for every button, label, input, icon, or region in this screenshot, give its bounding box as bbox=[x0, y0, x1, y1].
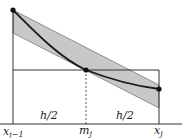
right-endpoint-dot bbox=[156, 86, 161, 91]
x-left-label: xj−1 bbox=[3, 125, 24, 138]
midpoint-rule-diagram: h/2 h/2 xj−1 mj xj bbox=[0, 0, 182, 138]
midpoint-label: mj bbox=[79, 124, 92, 138]
right-half-width-label: h/2 bbox=[116, 109, 134, 122]
x-left-sub: j−1 bbox=[7, 130, 23, 138]
x-right-label: xj bbox=[154, 124, 163, 138]
error-band bbox=[13, 10, 159, 108]
left-half-width-label: h/2 bbox=[40, 109, 58, 122]
midpoint-base: m bbox=[79, 124, 89, 137]
left-endpoint-dot bbox=[10, 7, 15, 12]
midpoint-dot bbox=[83, 67, 88, 72]
